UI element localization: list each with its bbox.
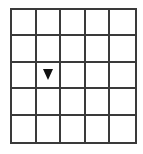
triangle-down-icon — [43, 69, 53, 80]
grid-cell — [86, 63, 111, 89]
grid-board — [10, 8, 137, 144]
grid-cell — [86, 116, 111, 142]
grid-cell — [110, 89, 135, 115]
grid-cell — [110, 36, 135, 62]
grid-cell — [37, 116, 62, 142]
grid-cell — [86, 10, 111, 36]
grid-cell — [61, 10, 86, 36]
grid-cell — [37, 10, 62, 36]
grid-cell — [12, 89, 37, 115]
grid-cell — [86, 36, 111, 62]
grid-cell — [37, 36, 62, 62]
grid-cell — [110, 63, 135, 89]
grid-cell — [37, 63, 62, 89]
grid-cell — [61, 36, 86, 62]
grid-cell — [86, 89, 111, 115]
grid-cell — [110, 116, 135, 142]
grid-cell — [61, 63, 86, 89]
grid-cell — [12, 63, 37, 89]
grid-cell — [61, 89, 86, 115]
grid-cell — [61, 116, 86, 142]
grid-cell — [12, 10, 37, 36]
grid-cell — [110, 10, 135, 36]
grid-cell — [12, 116, 37, 142]
grid-cell — [12, 36, 37, 62]
grid-cell — [37, 89, 62, 115]
